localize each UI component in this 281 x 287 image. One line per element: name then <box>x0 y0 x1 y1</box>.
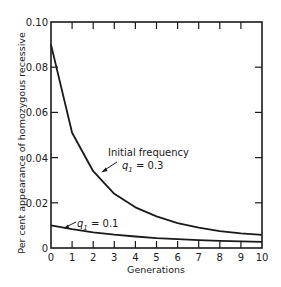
x-tick-labels: 012345678910 <box>48 252 269 263</box>
arrowhead-icon <box>64 225 70 229</box>
axis-ticks <box>51 22 262 248</box>
y-tick-label: 0.04 <box>26 153 48 164</box>
x-tick-label: 2 <box>90 252 96 263</box>
plot-frame <box>51 22 262 248</box>
y-tick-label: 0.02 <box>26 198 48 209</box>
annotation-label-q03: q1 = 0.3 <box>122 160 163 174</box>
annotation-initial-frequency: Initial frequency q1 = 0.3 <box>101 147 189 174</box>
y-tick-label: 0.08 <box>26 62 48 73</box>
x-tick-label: 7 <box>196 252 202 263</box>
y-axis-title: Per cent appearance of homozygous recess… <box>16 32 27 254</box>
x-tick-label: 5 <box>153 252 159 263</box>
x-tick-label: 9 <box>238 252 244 263</box>
x-tick-label: 3 <box>111 252 117 263</box>
y-tick-label: 0.06 <box>26 107 48 118</box>
x-tick-label: 8 <box>217 252 223 263</box>
x-tick-label: 10 <box>256 252 269 263</box>
x-axis-title: Generations <box>127 264 185 275</box>
line-chart: 012345678910 00.020.040.060.080.10 Gener… <box>0 0 281 287</box>
data-series <box>51 45 262 242</box>
y-tick-label: 0.10 <box>26 17 48 28</box>
x-tick-label: 6 <box>174 252 180 263</box>
y-tick-labels: 00.020.040.060.080.10 <box>26 17 48 254</box>
annotation-label-q01: q1 = 0.1 <box>77 218 118 232</box>
x-tick-label: 0 <box>48 252 54 263</box>
series-line-0 <box>51 45 262 235</box>
x-tick-label: 4 <box>132 252 138 263</box>
annotation-label-initial-frequency: Initial frequency <box>108 147 189 158</box>
x-tick-label: 1 <box>69 252 75 263</box>
y-tick-label: 0 <box>42 243 48 254</box>
